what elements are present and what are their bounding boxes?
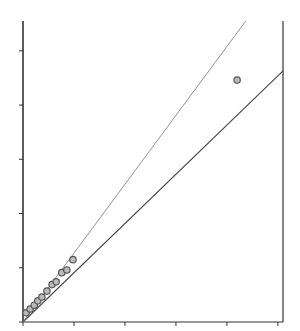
scatter-chart xyxy=(0,0,300,331)
data-point xyxy=(53,279,59,285)
reference-lines xyxy=(23,21,283,322)
data-point xyxy=(70,256,76,262)
data-point xyxy=(39,294,45,300)
data-points xyxy=(23,77,240,316)
thin-line xyxy=(23,21,246,322)
data-point xyxy=(44,288,50,294)
data-point xyxy=(64,267,70,273)
solid-line xyxy=(23,71,283,322)
data-point xyxy=(234,77,240,83)
